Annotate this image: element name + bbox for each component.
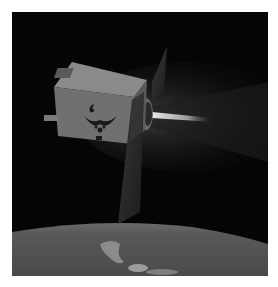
satellite-image: Illustration of a satellite in orbit abo… — [12, 12, 268, 276]
satellite-scene — [12, 12, 268, 276]
